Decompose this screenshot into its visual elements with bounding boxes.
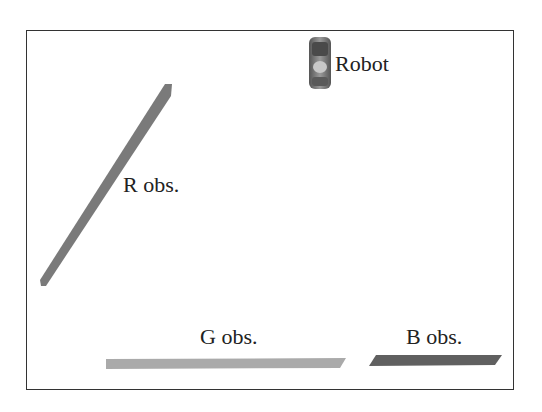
- b-obstacle: [369, 355, 502, 366]
- b-obstacle-label: B obs.: [406, 324, 462, 350]
- r-obstacle-label: R obs.: [123, 172, 179, 198]
- robot-label: Robot: [335, 51, 389, 77]
- robot-icon: [309, 37, 331, 89]
- g-obstacle: [106, 358, 346, 369]
- g-obstacle-label: G obs.: [200, 324, 257, 350]
- scene-canvas: [0, 0, 542, 412]
